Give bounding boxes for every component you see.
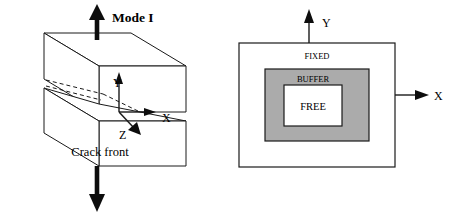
left-x-axis-label: X [162,111,171,125]
fixed-region-label: FIXED [304,51,329,61]
mode-i-label: Mode I [112,10,154,25]
figure-root: Mode I Y X Z Crack front FIXED BUFFER FR… [0,0,452,218]
crack-front-label: Crack front [71,145,129,159]
left-z-axis-label: Z [119,128,126,142]
free-region-label: FREE [300,101,326,112]
mode-i-bottom-load-arrowhead-icon [89,194,105,212]
mode-i-top-load-arrowhead-icon [89,4,105,20]
lower-block-front-face [99,121,186,166]
right-y-axis-label: Y [322,16,331,30]
right-y-axis-arrowhead-icon [304,9,314,23]
right-x-axis-label: X [434,89,443,103]
right-panel-domain-regions: FIXED BUFFER FREE Y X [239,9,443,167]
right-x-axis-arrowhead-icon [415,90,429,100]
buffer-region-label: BUFFER [297,74,329,84]
left-panel-mode-i: Mode I Y X Z Crack front [44,4,186,212]
figure-canvas: Mode I Y X Z Crack front FIXED BUFFER FR… [0,0,452,218]
left-y-axis-label: Y [113,76,122,90]
